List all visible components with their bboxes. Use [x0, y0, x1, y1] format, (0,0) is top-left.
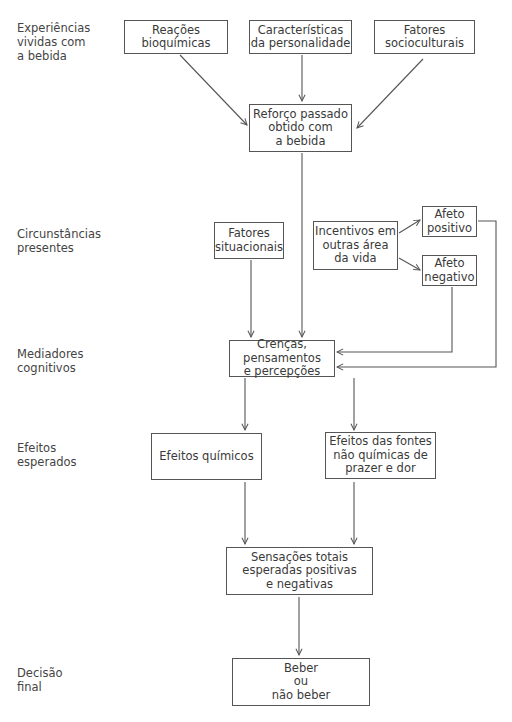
node-fatores-situacionais: Fatores situacionais [214, 222, 284, 259]
stage-label-decisao: Decisão final [17, 666, 63, 694]
stage-label-efeitos: Efeitos esperados [17, 441, 77, 469]
node-reacoes-bioquimicas: Reações bioquímicas [124, 20, 228, 54]
node-efeitos-nao-quimicos: Efeitos das fontes não químicas de praze… [325, 432, 436, 479]
node-decisao-beber: Beber ou não beber [232, 658, 370, 706]
node-sensacoes-totais: Sensações totais esperadas positivas e n… [226, 547, 373, 595]
node-afeto-positivo: Afeto positivo [422, 206, 477, 237]
node-crencas: Crenças, pensamentos e percepções [229, 340, 335, 377]
node-fatores-socioculturais: Fatores socioculturais [374, 20, 475, 54]
stage-label-circunstancias: Circunstâncias presentes [17, 227, 101, 255]
stage-label-experiencias: Experiências vividas com a bebida [17, 21, 90, 63]
stage-label-mediadores: Mediadores cognitivos [17, 347, 83, 375]
node-incentivos: Incentivos em outras área da vida [313, 221, 398, 270]
node-efeitos-quimicos: Efeitos químicos [151, 433, 262, 480]
node-afeto-negativo: Afeto negativo [422, 255, 477, 286]
node-caracteristicas-personalidade: Características da personalidade [249, 20, 352, 54]
node-reforco-passado: Reforço passado obtido com a bebida [249, 104, 352, 152]
